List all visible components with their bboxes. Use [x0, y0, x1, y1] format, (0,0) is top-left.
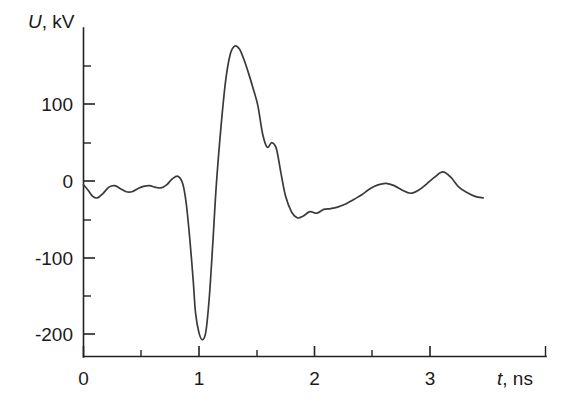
y-axis-major-ticks	[84, 104, 96, 334]
waveform-curve	[84, 46, 484, 340]
x-tick-label-1: 1	[194, 368, 205, 389]
waveform-plot: 100 0 -100 -200 0 1 2 3 U, kV t, ns	[0, 0, 577, 412]
x-tick-label-2: 2	[309, 368, 320, 389]
y-tick-label-neg100: -100	[35, 248, 73, 269]
x-axis-title: t, ns	[497, 368, 533, 389]
y-axis-title-unit: , kV	[42, 11, 75, 32]
x-tick-label-0: 0	[78, 368, 89, 389]
y-axis-title-symbol: U	[28, 11, 42, 32]
y-axis-title: U, kV	[28, 11, 75, 32]
x-tick-labels: 0 1 2 3	[78, 368, 435, 389]
x-tick-label-3: 3	[425, 368, 436, 389]
y-tick-label-0: 0	[62, 171, 73, 192]
x-axis-title-unit: , ns	[502, 368, 533, 389]
x-axis-minor-ticks	[141, 346, 546, 357]
waveform-figure: 100 0 -100 -200 0 1 2 3 U, kV t, ns	[0, 0, 577, 412]
y-tick-labels: 100 0 -100 -200	[35, 94, 73, 345]
y-tick-label-100: 100	[41, 94, 73, 115]
y-tick-label-neg200: -200	[35, 324, 73, 345]
